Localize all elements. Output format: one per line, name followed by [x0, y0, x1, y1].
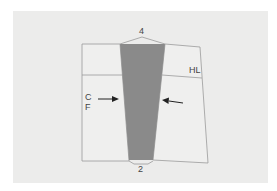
top-dart-peak [120, 37, 165, 44]
center-front-c-label: C [85, 93, 92, 102]
bottom-dart-number: 2 [138, 165, 143, 174]
hip-line-label: HL [189, 66, 201, 75]
center-front-f-label: F [85, 103, 91, 112]
top-dart-number: 4 [139, 27, 144, 36]
